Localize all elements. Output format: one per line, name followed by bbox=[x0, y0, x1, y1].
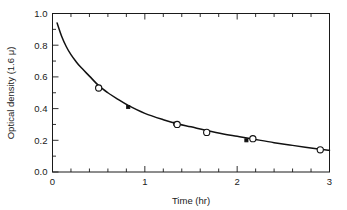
x-axis-major-ticks bbox=[53, 14, 330, 173]
y-tick-label: 0.2 bbox=[34, 135, 47, 146]
x-tick-label: 0 bbox=[50, 176, 55, 187]
chart-canvas: 0123 0.00.20.40.60.81.0 Time (hr) Optica… bbox=[0, 0, 347, 210]
data-point-open-circle bbox=[317, 147, 323, 153]
data-point-open-circle bbox=[174, 121, 180, 127]
data-point-filled-square bbox=[127, 105, 130, 108]
y-tick-label: 0.6 bbox=[34, 71, 47, 82]
data-point-open-circle bbox=[204, 129, 210, 135]
data-point-open-circle bbox=[250, 136, 256, 142]
data-point-open-circle bbox=[96, 85, 102, 91]
y-axis-minor-ticks bbox=[53, 29, 57, 156]
y-tick-label: 0.8 bbox=[34, 40, 47, 51]
filled-square-data-points bbox=[127, 105, 248, 141]
y-tick-label: 0.4 bbox=[34, 103, 47, 114]
data-point-filled-square bbox=[245, 139, 248, 142]
x-axis-tick-labels: 0123 bbox=[50, 176, 332, 187]
x-tick-label: 3 bbox=[327, 176, 332, 187]
open-circle-data-points bbox=[96, 85, 324, 153]
plot-frame bbox=[53, 14, 330, 173]
x-axis-title: Time (hr) bbox=[172, 195, 210, 206]
y-tick-label: 0.0 bbox=[34, 166, 47, 177]
x-tick-label: 1 bbox=[142, 176, 147, 187]
y-tick-label: 1.0 bbox=[34, 8, 47, 19]
x-tick-label: 2 bbox=[235, 176, 240, 187]
chart-figure: 0123 0.00.20.40.60.81.0 Time (hr) Optica… bbox=[0, 0, 347, 210]
y-axis-tick-labels: 0.00.20.40.60.81.0 bbox=[34, 8, 47, 178]
y-axis-title: Optical density (1.6 μ) bbox=[5, 47, 16, 140]
